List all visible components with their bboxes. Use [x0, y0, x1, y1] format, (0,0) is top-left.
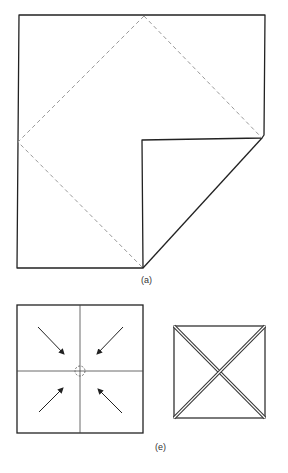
dashed-fold-lines	[18, 16, 262, 268]
figure-e-label: (e)	[155, 442, 166, 452]
figure-e-right	[174, 326, 265, 418]
figure-a	[17, 15, 265, 268]
figure-e-left	[17, 305, 143, 433]
arrow-bottom-left-icon	[39, 388, 63, 412]
paper-outline	[17, 15, 265, 268]
arrow-top-left-icon	[38, 327, 64, 354]
arrow-bottom-right-icon	[98, 389, 122, 413]
folded-flap	[143, 138, 262, 268]
figure-a-label: (a)	[141, 275, 152, 285]
folding-diagram	[0, 0, 288, 473]
arrow-top-right-icon	[97, 327, 123, 354]
